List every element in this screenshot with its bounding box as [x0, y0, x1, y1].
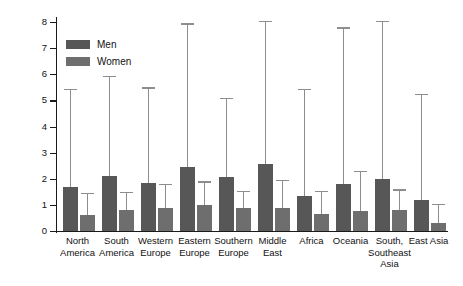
error-bar-cap — [220, 98, 233, 99]
bar-group — [102, 22, 134, 231]
error-bar-cap — [81, 193, 94, 194]
bar-men — [180, 167, 195, 231]
bar-chart-figure: Number of partners desired 012345678 Men… — [0, 0, 463, 286]
bar-group — [375, 22, 407, 231]
y-axis-tick-label: 2 — [31, 174, 47, 184]
error-bar-cap — [354, 171, 367, 172]
error-bar-cap — [198, 181, 211, 182]
bar-women — [353, 211, 368, 231]
error-bar-cap — [259, 21, 272, 22]
y-axis-tick — [50, 231, 57, 232]
error-bar-cap — [103, 76, 116, 77]
bar-women — [236, 208, 251, 232]
error-bar-cap — [142, 87, 155, 88]
x-axis-line — [50, 231, 448, 232]
bar-men — [375, 179, 390, 231]
error-bar-cap — [376, 21, 389, 22]
y-axis-tick-label: 4 — [31, 122, 47, 132]
error-bar-cap — [64, 89, 77, 90]
y-axis-tick — [50, 205, 57, 206]
bar-men — [141, 183, 156, 231]
bar-men — [414, 200, 429, 231]
y-axis-line — [56, 17, 57, 233]
error-bar-cap — [337, 27, 350, 28]
bar-women — [431, 223, 446, 231]
bar-men — [219, 177, 234, 231]
bar-men — [63, 187, 78, 231]
y-axis-tick-label: 1 — [31, 200, 47, 210]
bar-group — [414, 22, 446, 231]
y-axis-tick-label: 6 — [31, 69, 47, 79]
error-bar-cap — [159, 184, 172, 185]
y-axis-tick-label: 7 — [31, 43, 47, 53]
error-bar-cap — [276, 180, 289, 181]
bar-group — [258, 22, 290, 231]
bar-men — [336, 184, 351, 231]
bar-men — [258, 164, 273, 231]
bar-group — [141, 22, 173, 231]
y-axis-tick-label: 0 — [31, 226, 47, 236]
error-bar-cap — [181, 23, 194, 24]
bar-group — [63, 22, 95, 231]
bar-women — [197, 205, 212, 231]
y-axis-tick — [50, 100, 57, 101]
y-axis-tick — [50, 153, 57, 154]
bar-women — [158, 208, 173, 232]
bar-group — [180, 22, 212, 231]
y-axis-tick-label: 3 — [31, 148, 47, 158]
x-axis-label: East Asia — [401, 235, 456, 247]
bar-women — [80, 215, 95, 231]
error-bar-cap — [315, 191, 328, 192]
error-bar-cap — [120, 192, 133, 193]
plot-area: 012345678 MenWomen North AmericaSouth Am… — [58, 22, 448, 231]
y-axis-tick — [50, 179, 57, 180]
bar-women — [119, 210, 134, 231]
y-axis-tick-label: 5 — [31, 95, 47, 105]
bar-group — [297, 22, 329, 231]
error-bar-cap — [393, 189, 406, 190]
error-bar-cap — [298, 89, 311, 90]
y-axis-tick — [50, 74, 57, 75]
error-bar-cap — [237, 191, 250, 192]
y-axis-tick-label: 8 — [31, 17, 47, 27]
bar-group — [219, 22, 251, 231]
bar-men — [102, 176, 117, 231]
bar-men — [297, 196, 312, 231]
bar-group — [336, 22, 368, 231]
error-bar-cap — [415, 94, 428, 95]
y-axis-tick — [50, 48, 57, 49]
error-bar-cap — [432, 204, 445, 205]
bar-women — [314, 214, 329, 231]
bar-women — [392, 210, 407, 231]
y-axis-tick — [50, 127, 57, 128]
y-axis-tick — [50, 22, 57, 23]
bar-women — [275, 208, 290, 232]
